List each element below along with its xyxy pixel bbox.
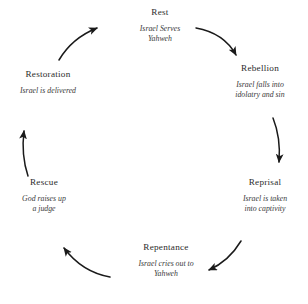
stage-repentance: Repentance Israel cries out to Yahweh [118,243,214,280]
stage-restoration: Restoration Israel is delivered [2,70,94,96]
arrow-rescue-to-restoration [23,131,28,176]
stage-rest-title: Rest [110,8,210,17]
stage-rest: Rest Israel Serves Yahweh [110,8,210,45]
stage-rescue-description: God raises up a judge [0,194,88,215]
stage-repentance-title: Repentance [118,243,214,252]
stage-rescue-title: Rescue [0,178,88,187]
cycle-diagram: Rest Israel Serves Yahweh Rebellion Isra… [0,0,308,304]
stage-reprisal: Reprisal Israel is taken into captivity [222,178,308,215]
arrow-repentance-to-rescue [64,248,110,277]
stage-restoration-description: Israel is delivered [2,86,94,96]
stage-restoration-title: Restoration [2,70,94,79]
arrow-restoration-to-rest [59,28,97,60]
stage-reprisal-description: Israel is taken into captivity [222,194,308,215]
stage-rebellion: Rebellion Israel falls into idolatry and… [212,64,308,101]
stage-rest-description: Israel Serves Yahweh [110,24,210,45]
arrow-rebellion-to-reprisal [273,118,279,162]
stage-rescue: Rescue God raises up a judge [0,178,88,215]
stage-rebellion-description: Israel falls into idolatry and sin [212,80,308,101]
stage-repentance-description: Israel cries out to Yahweh [118,259,214,280]
stage-reprisal-title: Reprisal [222,178,308,187]
stage-rebellion-title: Rebellion [212,64,308,73]
